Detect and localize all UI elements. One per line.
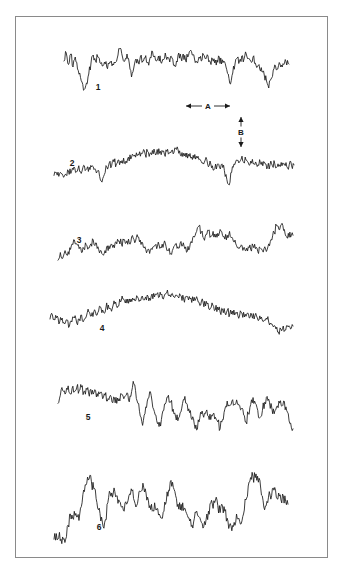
trace-3 [58,223,293,260]
trace-5 [58,381,293,430]
marker-b-top-arrowhead [238,117,243,122]
plot-area: AB 123456 [16,17,329,559]
marker-a-left-arrowhead [186,103,191,108]
marker-b: B [238,117,244,147]
trace-6 [54,472,288,543]
marker-a-right-arrowhead [225,103,230,108]
trace-4 [50,290,293,334]
traces-svg: AB 123456 [16,17,329,559]
trace-label-6: 6 [97,522,102,532]
marker-a-label: A [205,102,211,111]
annotations-group: AB [186,102,244,147]
marker-b-bottom-arrowhead [238,142,243,147]
figure-border-frame: AB 123456 [15,16,328,558]
trace-label-1: 1 [96,82,101,92]
marker-a: A [186,102,230,111]
marker-b-label: B [238,128,244,137]
traces-group [50,48,294,544]
figure-root: AB 123456 [0,0,344,576]
trace-label-4: 4 [100,323,105,333]
trace-label-2: 2 [70,158,75,168]
trace-label-3: 3 [77,235,82,245]
trace-label-5: 5 [86,412,91,422]
trace-2 [54,147,294,185]
